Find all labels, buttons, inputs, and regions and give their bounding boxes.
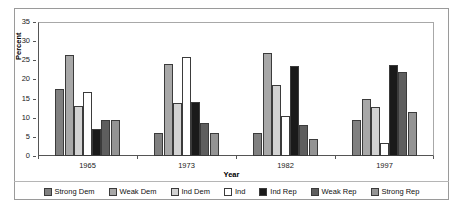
y-tick-mark [33, 79, 36, 80]
bar-ind-rep-1982 [290, 66, 299, 156]
y-tick-label: 35 [22, 18, 30, 26]
legend-label: Ind Rep [270, 187, 296, 196]
legend-item-ind[interactable]: Ind [224, 187, 245, 196]
plot-area [38, 22, 434, 156]
y-tick-label: 5 [26, 133, 30, 141]
bar-strong-rep-1982 [309, 139, 318, 156]
legend-label: Ind Dem [182, 187, 210, 196]
bar-ind-dem-1965 [74, 106, 83, 156]
bar-weak-dem-1965 [65, 55, 74, 156]
bar-ind-dem-1973 [173, 103, 182, 156]
bar-weak-rep-1973 [200, 123, 209, 156]
y-tick-mark [33, 137, 36, 138]
bar-weak-rep-1965 [101, 120, 110, 156]
bar-ind-1965 [83, 92, 92, 156]
bar-ind-dem-1997 [371, 107, 380, 156]
legend-label: Weak Rep [322, 187, 357, 196]
y-tick-mark [33, 118, 36, 119]
bar-ind-dem-1982 [272, 85, 281, 156]
legend-swatch-icon [109, 188, 117, 196]
x-axis-title: Year [0, 170, 463, 179]
legend-item-weak-dem[interactable]: Weak Dem [109, 187, 157, 196]
y-tick-label: 15 [22, 95, 30, 103]
y-tick-mark [33, 156, 36, 157]
bar-ind-rep-1997 [389, 65, 398, 156]
bar-strong-dem-1997 [352, 120, 361, 156]
bar-strong-rep-1973 [210, 133, 219, 156]
bar-weak-rep-1982 [299, 125, 308, 156]
legend-item-ind-rep[interactable]: Ind Rep [259, 187, 296, 196]
y-tick-label: 25 [22, 56, 30, 64]
y-tick-mark [33, 41, 36, 42]
y-tick-label: 0 [26, 152, 30, 160]
bar-ind-1982 [281, 116, 290, 156]
x-tick-label: 1982 [277, 161, 294, 170]
legend-item-strong-rep[interactable]: Strong Rep [371, 187, 420, 196]
bar-ind-1997 [380, 143, 389, 156]
x-tick-mark [38, 156, 39, 159]
bar-ind-rep-1973 [191, 102, 200, 156]
y-tick-mark [33, 60, 36, 61]
x-tick-mark [137, 156, 138, 159]
bar-weak-dem-1997 [362, 99, 371, 156]
bar-strong-dem-1982 [253, 133, 262, 156]
bar-strong-rep-1997 [408, 112, 417, 156]
bar-weak-dem-1982 [263, 53, 272, 156]
bar-ind-rep-1965 [92, 129, 101, 156]
chart-figure: Percent 05101520253035 1965197319821997 … [0, 0, 463, 209]
y-tick-mark [33, 22, 36, 23]
x-tick-mark [236, 156, 237, 159]
y-tick-label: 10 [22, 114, 30, 122]
bar-strong-dem-1965 [55, 89, 64, 156]
legend-item-weak-rep[interactable]: Weak Rep [311, 187, 357, 196]
x-tick-mark [433, 156, 434, 159]
legend-swatch-icon [259, 188, 267, 196]
legend-divider [14, 181, 449, 182]
bar-strong-rep-1965 [111, 120, 120, 156]
legend-label: Strong Dem [55, 187, 95, 196]
legend-swatch-icon [224, 188, 232, 196]
legend-label: Ind [235, 187, 245, 196]
legend-label: Weak Dem [120, 187, 157, 196]
y-tick-label: 30 [22, 37, 30, 45]
y-axis-tick-labels: 05101520253035 [0, 22, 36, 156]
legend-item-ind-dem[interactable]: Ind Dem [171, 187, 210, 196]
legend-swatch-icon [311, 188, 319, 196]
x-tick-mark [335, 156, 336, 159]
legend-swatch-icon [171, 188, 179, 196]
bar-ind-1973 [182, 57, 191, 156]
x-tick-label: 1997 [376, 161, 393, 170]
y-tick-mark [33, 99, 36, 100]
x-tick-label: 1965 [79, 161, 96, 170]
legend-label: Strong Rep [382, 187, 420, 196]
legend-swatch-icon [44, 188, 52, 196]
bar-weak-dem-1973 [164, 64, 173, 156]
bar-strong-dem-1973 [154, 133, 163, 156]
bar-weak-rep-1997 [398, 72, 407, 156]
legend-swatch-icon [371, 188, 379, 196]
legend-item-strong-dem[interactable]: Strong Dem [44, 187, 95, 196]
x-tick-label: 1973 [178, 161, 195, 170]
y-tick-label: 20 [22, 75, 30, 83]
chart-legend: Strong DemWeak DemInd DemIndInd RepWeak … [14, 183, 449, 200]
